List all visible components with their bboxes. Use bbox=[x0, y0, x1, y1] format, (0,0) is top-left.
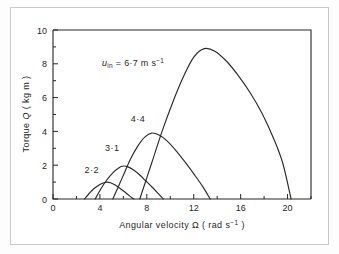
x-axis-title-symbol: Ω bbox=[192, 220, 199, 230]
y-tick-label: 4 bbox=[42, 127, 47, 137]
torque-vs-angular-velocity-chart: 048121620 0246810 uin = 6·7 m s−1 2·2 3·… bbox=[0, 0, 339, 254]
y-axis-ticks bbox=[53, 30, 58, 199]
x-axis-title-units-exp: −1 bbox=[230, 219, 238, 226]
x-axis-title: Angular velocity Ω ( rad s−1 ) bbox=[119, 219, 245, 230]
y-axis-title-symbol: Q bbox=[21, 112, 31, 119]
curve-label-4-4: 4·4 bbox=[131, 114, 146, 124]
x-axis-title-units-open: ( rad s bbox=[202, 220, 230, 230]
inlet-velocity-annotation: uin = 6·7 m s−1 bbox=[102, 57, 164, 69]
x-axis-title-units-close: ) bbox=[239, 220, 245, 230]
curve-label-3-1: 3·1 bbox=[105, 143, 120, 153]
curve-label-2-2: 2·2 bbox=[84, 165, 99, 175]
y-axis-tick-labels: 0246810 bbox=[37, 26, 47, 205]
data-curves bbox=[85, 48, 291, 199]
y-tick-label: 6 bbox=[42, 93, 47, 103]
y-axis-title-main: Torque bbox=[21, 123, 31, 153]
y-tick-label: 10 bbox=[37, 26, 47, 36]
x-tick-label: 0 bbox=[50, 203, 55, 213]
x-axis-title-main: Angular velocity bbox=[119, 220, 189, 230]
y-tick-label: 8 bbox=[42, 59, 47, 69]
annotation-equals: = 6·7 m s bbox=[113, 58, 156, 68]
x-tick-label: 4 bbox=[97, 203, 102, 213]
y-axis-title-units: ( kg m ) bbox=[21, 76, 31, 110]
y-tick-label: 2 bbox=[42, 161, 47, 171]
y-axis-title: Torque Q ( kg m ) bbox=[21, 76, 31, 153]
curve-3-1 bbox=[95, 166, 163, 199]
y-tick-label: 0 bbox=[42, 195, 47, 205]
x-axis-ticks bbox=[53, 194, 311, 199]
figure-container: 048121620 0246810 uin = 6·7 m s−1 2·2 3·… bbox=[0, 0, 339, 254]
curve-2-2 bbox=[85, 182, 134, 199]
x-tick-label: 8 bbox=[144, 203, 149, 213]
curve-4-4 bbox=[113, 133, 210, 199]
x-axis-tick-labels: 048121620 bbox=[50, 203, 292, 213]
x-tick-label: 12 bbox=[189, 203, 199, 213]
x-tick-label: 20 bbox=[283, 203, 293, 213]
curve-6-7 bbox=[140, 48, 291, 199]
annotation-exponent: −1 bbox=[156, 57, 164, 64]
x-tick-label: 16 bbox=[236, 203, 246, 213]
